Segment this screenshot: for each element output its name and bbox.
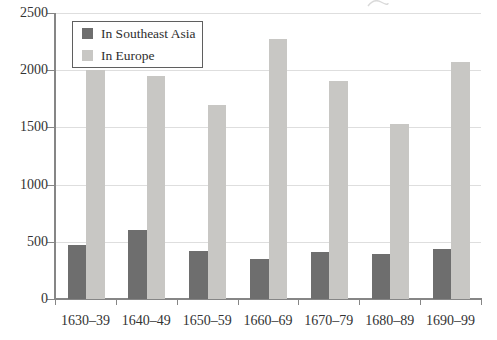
y-axis-label-1500: 1500 bbox=[8, 118, 48, 136]
legend-swatch-europe bbox=[82, 50, 93, 61]
x-axis-label-4: 1670–79 bbox=[298, 312, 359, 330]
bar-chart-figure: 050010001500200025001630–391640–491650–5… bbox=[0, 0, 497, 340]
x-axis-label-6: 1690–99 bbox=[420, 312, 481, 330]
bar-europe-1630-39 bbox=[86, 70, 105, 299]
x-tick-7 bbox=[481, 299, 482, 305]
x-axis-label-3: 1660–69 bbox=[238, 312, 299, 330]
y-tick-1500 bbox=[47, 127, 54, 128]
legend-item-europe: In Europe bbox=[82, 48, 202, 63]
x-tick-1 bbox=[116, 299, 117, 305]
y-axis-label-1000: 1000 bbox=[8, 176, 48, 194]
y-tick-500 bbox=[47, 242, 54, 243]
scan-artifact bbox=[367, 0, 389, 8]
bar-europe-1650-59 bbox=[208, 105, 227, 300]
y-axis-label-500: 500 bbox=[8, 233, 48, 251]
y-tick-0 bbox=[47, 299, 54, 300]
bar-southeast-asia-1680-89 bbox=[372, 254, 391, 299]
y-axis-label-2500: 2500 bbox=[8, 4, 48, 22]
bar-europe-1640-49 bbox=[147, 76, 166, 299]
legend-item-southeast-asia: In Southeast Asia bbox=[82, 26, 202, 41]
legend: In Southeast Asia In Europe bbox=[72, 21, 203, 68]
y-tick-2500 bbox=[47, 13, 54, 14]
bar-europe-1670-79 bbox=[329, 81, 348, 300]
bar-southeast-asia-1690-99 bbox=[433, 249, 452, 299]
y-axis-label-0: 0 bbox=[8, 290, 48, 308]
bar-europe-1660-69 bbox=[269, 39, 288, 299]
x-tick-5 bbox=[359, 299, 360, 305]
bar-southeast-asia-1630-39 bbox=[68, 245, 87, 299]
x-axis-label-5: 1680–89 bbox=[359, 312, 420, 330]
bar-europe-1690-99 bbox=[451, 62, 470, 299]
x-axis-label-1: 1640–49 bbox=[116, 312, 177, 330]
gridline-2500 bbox=[55, 13, 481, 14]
bar-southeast-asia-1670-79 bbox=[311, 252, 330, 299]
y-tick-1000 bbox=[47, 185, 54, 186]
y-axis bbox=[54, 13, 56, 300]
x-tick-2 bbox=[177, 299, 178, 305]
x-tick-0 bbox=[55, 299, 56, 305]
bar-southeast-asia-1650-59 bbox=[189, 251, 208, 299]
legend-swatch-southeast-asia bbox=[82, 28, 93, 39]
bar-southeast-asia-1660-69 bbox=[250, 259, 269, 299]
x-tick-4 bbox=[298, 299, 299, 305]
y-tick-2000 bbox=[47, 70, 54, 71]
x-axis-label-0: 1630–39 bbox=[55, 312, 116, 330]
bar-europe-1680-89 bbox=[390, 124, 409, 299]
x-tick-3 bbox=[238, 299, 239, 305]
legend-label-europe: In Europe bbox=[101, 48, 155, 63]
x-tick-6 bbox=[420, 299, 421, 305]
y-axis-label-2000: 2000 bbox=[8, 61, 48, 79]
bar-southeast-asia-1640-49 bbox=[128, 230, 147, 299]
x-axis-label-2: 1650–59 bbox=[177, 312, 238, 330]
legend-label-southeast-asia: In Southeast Asia bbox=[101, 26, 196, 41]
